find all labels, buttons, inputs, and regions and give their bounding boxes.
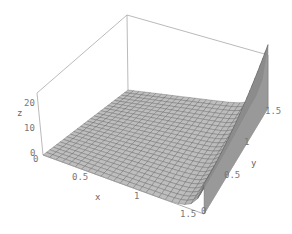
y-tick-0.5: 0.5 [224, 170, 240, 180]
y-tick-1: 1 [244, 137, 249, 147]
y-tick-1.5: 1.5 [265, 106, 281, 116]
surface-plot: 20 10 0 z 0 0.5 1 1.5 x 0 0.5 1 1.5 y [0, 0, 292, 234]
x-tick-1.5: 1.5 [180, 209, 196, 219]
y-tick-0: 0 [201, 206, 206, 216]
z-axis-label: z [17, 108, 22, 118]
y-axis-label: y [251, 158, 257, 168]
surface-mesh [43, 45, 268, 214]
x-tick-0.5: 0.5 [72, 172, 88, 182]
z-tick-20: 20 [24, 98, 35, 108]
x-axis-label: x [95, 192, 101, 202]
x-tick-0: 0 [33, 154, 38, 164]
z-axis: 20 10 0 z [17, 98, 35, 158]
z-tick-10: 10 [24, 123, 35, 133]
x-tick-1: 1 [134, 191, 139, 201]
